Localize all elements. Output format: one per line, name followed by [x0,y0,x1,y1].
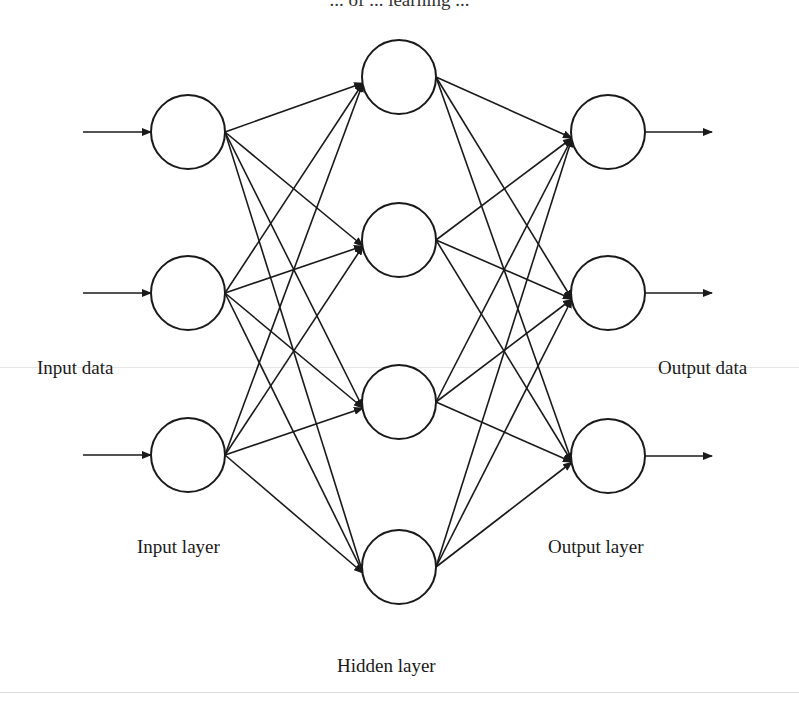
input-node-1 [151,95,225,169]
hidden-node-2 [362,203,436,277]
input-node-3 [151,418,225,492]
output-data-label: Output data [658,358,747,377]
connection-input-1-to-hidden-1 [225,83,363,132]
connection-input-3-to-hidden-1 [225,83,363,455]
input-node-2 [151,256,225,330]
hidden-node-3 [362,365,436,439]
input-layer-label: Input layer [137,537,220,556]
connection-input-3-to-hidden-3 [225,408,363,455]
connection-hidden-4-to-output-2 [436,299,572,567]
connection-input-3-to-hidden-4 [225,455,363,573]
hidden-node-4 [362,530,436,604]
input-data-label: Input data [37,358,114,377]
connection-input-3-to-hidden-2 [225,246,363,455]
nodes-group [151,40,645,604]
connection-hidden-3-to-output-1 [436,138,572,402]
connection-hidden-1-to-output-2 [436,77,572,299]
output-node-2 [571,256,645,330]
output-node-1 [571,95,645,169]
connections-group [225,77,572,573]
hidden-node-1 [362,40,436,114]
hidden-layer-label: Hidden layer [337,656,436,675]
output-node-3 [571,419,645,493]
connection-input-2-to-hidden-1 [225,83,363,293]
output-layer-label: Output layer [548,537,644,556]
connection-input-2-to-hidden-4 [225,293,363,573]
connection-hidden-1-to-output-1 [436,77,572,138]
connection-input-1-to-hidden-4 [225,132,363,573]
connection-hidden-2-to-output-1 [436,138,572,240]
connection-hidden-4-to-output-1 [436,138,572,567]
neural-network-diagram [0,0,799,702]
